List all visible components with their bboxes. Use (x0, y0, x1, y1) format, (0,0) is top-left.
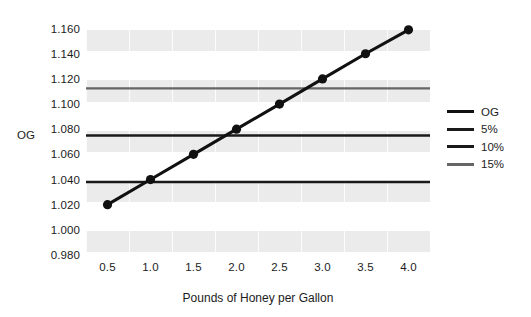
y-axis-tick-label: 1.060 (2, 148, 80, 160)
y-axis-tick-label: 1.020 (2, 199, 80, 211)
x-axis-tick-label: 2.5 (258, 261, 302, 274)
legend-item-label: 15% (481, 158, 504, 170)
legend-swatch-icon (447, 110, 474, 113)
chart-container: OG 0.9801.0001.0201.0401.0601.0801.1001.… (0, 0, 531, 317)
legend-item-label: 5% (481, 123, 498, 135)
x-axis-title: Pounds of Honey per Gallon (86, 291, 430, 305)
x-axis-tick-label: 0.5 (86, 261, 130, 274)
data-point-marker (275, 99, 284, 108)
data-point-marker (232, 125, 241, 134)
y-axis-tick-labels: 0.9801.0001.0201.0401.0601.0801.1001.120… (0, 0, 80, 317)
data-point-marker (361, 49, 370, 58)
y-axis-tick-label: 1.040 (2, 174, 80, 186)
plot-area (86, 16, 430, 255)
x-axis-tick-label: 4.0 (387, 261, 431, 274)
legend-swatch-icon (447, 145, 474, 148)
legend-item-10pct[interactable]: 10% (447, 138, 531, 156)
y-axis-tick-label: 1.100 (2, 98, 80, 110)
legend-item-15pct[interactable]: 15% (447, 156, 531, 174)
y-axis-tick-label: 1.080 (2, 123, 80, 135)
x-axis-tick-label: 1.0 (129, 261, 173, 274)
x-axis-tick-label: 1.5 (172, 261, 216, 274)
x-axis-tick-label: 3.5 (344, 261, 388, 274)
legend-swatch-icon (447, 128, 474, 131)
data-point-marker (404, 25, 413, 34)
data-point-marker (103, 200, 112, 209)
y-axis-tick-label: 1.140 (2, 48, 80, 60)
y-axis-tick-label: 0.980 (2, 249, 80, 261)
x-axis-tick-label: 2.0 (215, 261, 259, 274)
y-axis-tick-label: 1.000 (2, 224, 80, 236)
y-axis-tick-label: 1.160 (2, 23, 80, 35)
legend-swatch-icon (447, 163, 474, 166)
legend-item-label: 10% (481, 141, 504, 153)
legend-item-5pct[interactable]: 5% (447, 121, 531, 139)
plot-svg-overlay (86, 16, 430, 255)
y-axis-tick-label: 1.120 (2, 73, 80, 85)
data-point-marker (146, 175, 155, 184)
data-point-marker (189, 150, 198, 159)
legend-item-label: OG (481, 106, 499, 118)
x-axis-tick-labels: 0.51.01.52.02.53.03.54.0 (86, 261, 430, 277)
data-point-marker (318, 74, 327, 83)
legend-item-og[interactable]: OG (447, 103, 531, 121)
x-axis-tick-label: 3.0 (301, 261, 345, 274)
chart-legend: OG5%10%15% (447, 103, 531, 173)
